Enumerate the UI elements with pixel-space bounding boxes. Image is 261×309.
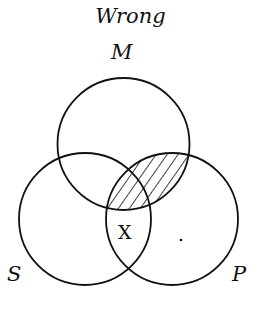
- circle-s: [19, 153, 151, 285]
- venn-diagram: [0, 0, 261, 309]
- dot-mark: [180, 239, 183, 242]
